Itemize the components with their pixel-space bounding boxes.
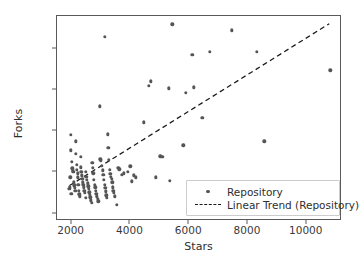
legend-label-linear-trend: Linear Trend (Repository) <box>223 199 359 211</box>
scatter-point <box>184 91 187 94</box>
scatter-point <box>113 195 116 198</box>
scatter-point <box>98 104 101 107</box>
scatter-point <box>84 196 87 199</box>
scatter-point <box>192 86 195 89</box>
legend-item-repository: Repository <box>193 185 333 198</box>
scatter-point <box>90 201 93 204</box>
scatter-point <box>72 170 75 173</box>
y-tick-mark <box>52 89 56 90</box>
scatter-point <box>103 35 106 38</box>
scatter-point <box>129 165 132 168</box>
scatter-point <box>74 139 77 142</box>
legend-item-linear-trend: Linear Trend (Repository) <box>193 198 333 211</box>
chart-legend: Repository Linear Trend (Repository) <box>186 180 340 216</box>
scatter-point <box>68 187 71 190</box>
scatter-point <box>208 50 211 53</box>
scatter-point <box>100 164 103 167</box>
scatter-point <box>96 200 99 203</box>
scatter-point <box>77 183 80 186</box>
scatter-point <box>99 159 102 162</box>
dashed-line-icon <box>193 204 223 205</box>
scatter-point <box>69 176 72 179</box>
y-tick-mark <box>52 171 56 172</box>
scatter-point <box>107 158 110 161</box>
x-tick-label: 8000 <box>234 224 261 236</box>
scatter-point <box>91 166 94 169</box>
scatter-point <box>154 176 157 179</box>
scatter-point <box>108 168 111 171</box>
scatter-point <box>201 116 204 119</box>
scatter-point <box>118 167 121 170</box>
scatter-point <box>74 152 77 155</box>
scatter-point <box>329 69 332 72</box>
scatter-point <box>101 169 104 172</box>
x-tick-label: 4000 <box>116 224 143 236</box>
scatter-point <box>230 29 233 32</box>
scatter-point <box>104 190 107 193</box>
scatter-point <box>106 132 109 135</box>
scatter-point <box>76 176 79 179</box>
legend-label-repository: Repository <box>223 186 283 198</box>
scatter-point <box>255 50 258 53</box>
scatter-point <box>70 192 73 195</box>
scatter-point <box>69 148 72 151</box>
scatter-point <box>134 176 137 179</box>
scatter-point <box>102 173 105 176</box>
scatter-point <box>78 195 81 198</box>
scatter-point <box>111 181 114 184</box>
x-tick-label: 6000 <box>175 224 202 236</box>
scatter-marker-icon <box>193 190 223 193</box>
y-tick-mark <box>52 212 56 213</box>
x-tick-label: 10000 <box>289 224 322 236</box>
scatter-point <box>170 23 173 26</box>
scatter-point <box>102 178 105 181</box>
scatter-point <box>160 155 163 158</box>
x-axis-label: Stars <box>56 240 341 253</box>
scatter-point <box>69 133 72 136</box>
scatter-point <box>115 203 118 206</box>
scatter-point <box>83 191 86 194</box>
y-tick-mark <box>52 130 56 131</box>
x-tick-label: 2000 <box>57 224 84 236</box>
scatter-point <box>182 144 185 147</box>
scatter-point <box>126 170 129 173</box>
scatter-point <box>84 170 87 173</box>
scatter-point <box>92 172 95 175</box>
scatter-point <box>91 161 94 164</box>
scatter-point <box>70 160 73 163</box>
scatter-point <box>75 163 78 166</box>
y-tick-mark <box>52 47 56 48</box>
y-axis-label: Forks <box>12 79 25 169</box>
scatter-point <box>190 53 193 56</box>
scatter-point <box>167 87 170 90</box>
scatter-point <box>142 121 145 124</box>
scatter-point <box>130 180 133 183</box>
scatter-point <box>79 155 82 158</box>
scatter-point <box>149 80 152 83</box>
scatter-point <box>92 178 95 181</box>
scatter-point <box>147 84 150 87</box>
scatter-point <box>263 139 266 142</box>
scatter-point <box>107 146 110 149</box>
scatter-point <box>168 179 171 182</box>
scatter-point <box>79 166 82 169</box>
scatter-point <box>105 196 108 199</box>
